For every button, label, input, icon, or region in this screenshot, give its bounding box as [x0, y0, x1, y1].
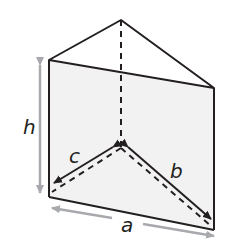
label-a: a — [121, 213, 133, 237]
label-b: b — [170, 159, 183, 183]
triangular-prism-diagram: h c b a — [0, 0, 231, 247]
dimension-a-arrow-left — [52, 208, 112, 218]
label-h: h — [23, 115, 36, 139]
label-c: c — [69, 144, 80, 168]
